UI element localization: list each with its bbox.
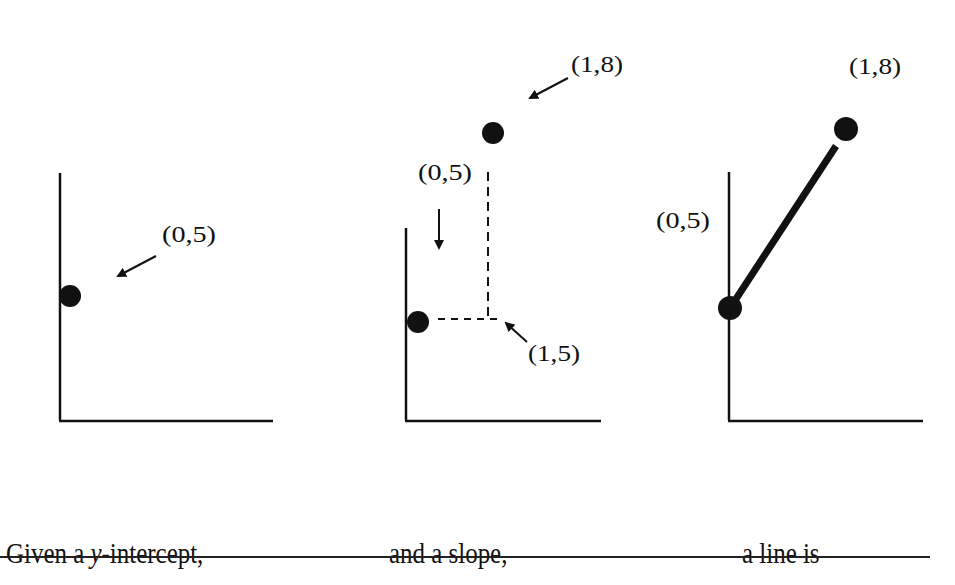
panel-3-graph: (0,5) (1,8) — [656, 54, 923, 421]
arrow-icon — [506, 323, 527, 342]
intercept-label: (0,5) — [656, 208, 710, 233]
top-point-label: (1,8) — [849, 54, 901, 79]
panel-1-caption: Given a y-intercept, e.g.,(0,5) — [6, 463, 203, 585]
slope-top-point — [834, 117, 858, 141]
panel-3-caption: a line is determined — [742, 463, 854, 585]
intercept-label: (0,5) — [162, 222, 216, 247]
panel-2-caption: and a slope, e.g., 3.0 — [389, 463, 507, 585]
top-point-label: (1,8) — [571, 52, 623, 77]
caption-line-1: Given a y-intercept, — [6, 535, 203, 571]
caption-line-1: and a slope, — [389, 535, 507, 571]
intercept-point — [407, 311, 429, 333]
panel-1-graph: (0,5) — [59, 173, 273, 421]
arrow-icon — [530, 78, 568, 98]
caption-text: Given a — [6, 537, 90, 569]
panel-2-graph: (0,5) (1,8) (1,5) — [405, 52, 623, 421]
intercept-point — [718, 296, 742, 320]
slope-top-point — [482, 122, 504, 144]
caption-text: -intercept, — [102, 537, 204, 569]
corner-point-label: (1,5) — [528, 341, 580, 366]
caption-line-1: a line is — [742, 535, 854, 571]
arrow-icon — [118, 256, 156, 276]
intercept-label: (0,5) — [418, 160, 472, 185]
intercept-point — [59, 285, 81, 307]
determined-line — [734, 146, 836, 302]
caption-italic-y: y — [90, 537, 101, 569]
bottom-rule-divider — [0, 556, 930, 558]
